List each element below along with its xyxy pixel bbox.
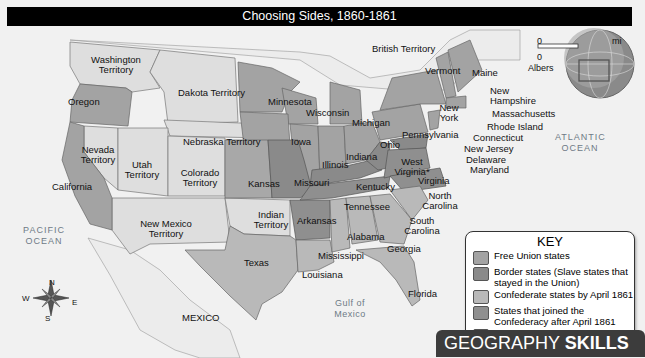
label-vermont: Vermont <box>425 66 460 76</box>
label-gulf-of-mexico: Gulf of Mexico <box>327 298 373 320</box>
label-west-virginia: West Virginia* <box>392 157 432 177</box>
swatch-joined-after <box>473 306 489 320</box>
label-louisiana: Louisiana <box>302 270 343 280</box>
label-kentucky: Kentucky <box>356 182 395 192</box>
map-key: KEY Free Union states Border states (Sla… <box>465 231 635 338</box>
scale-projection: Albers <box>528 63 554 73</box>
label-nevada-territory: Nevada Territory <box>78 145 118 165</box>
label-massachusetts: Massachusetts <box>492 109 555 119</box>
label-alabama: Alabama <box>347 232 385 242</box>
label-maine: Maine <box>472 68 498 78</box>
swatch-confederate <box>473 290 489 304</box>
label-mississippi: Mississippi <box>318 251 364 261</box>
label-dakota-territory: Dakota Territory <box>178 88 245 98</box>
label-tennessee: Tennessee <box>344 202 390 212</box>
scale-zero-bottom: 0 <box>537 52 542 62</box>
label-missouri: Missouri <box>294 178 329 188</box>
label-georgia: Georgia <box>387 244 421 254</box>
label-rhode-island: Rhode Island <box>487 122 543 132</box>
label-illinois: Illinois <box>322 160 348 170</box>
label-pacific-ocean: PACIFIC OCEAN <box>22 225 66 247</box>
key-title: KEY <box>466 235 634 249</box>
label-wisconsin: Wisconsin <box>306 108 349 118</box>
label-california: California <box>52 182 92 192</box>
key-label: Confederate states by April 1861 <box>494 290 633 301</box>
kansas <box>225 140 272 198</box>
key-item-free-union: Free Union states <box>473 251 634 265</box>
scale-zero-top: 0 <box>537 36 542 46</box>
key-item-confederate: Confederate states by April 1861 <box>473 290 634 304</box>
label-minnesota: Minnesota <box>268 97 312 107</box>
key-label: States that joined the Confederacy after… <box>494 306 634 327</box>
label-virginia: Virginia <box>418 176 450 186</box>
label-oregon: Oregon <box>68 97 100 107</box>
swatch-border <box>473 267 489 281</box>
swatch-free-union <box>473 251 489 265</box>
label-colorado-territory: Colorado Territory <box>178 168 222 188</box>
compass-e: E <box>72 298 77 308</box>
label-south-carolina: South Carolina <box>402 216 442 236</box>
label-nebraska-territory: Nebraska Territory <box>183 137 260 147</box>
key-item-border: Border states (Slave states that stayed … <box>473 267 634 288</box>
scale-bar <box>538 44 578 48</box>
key-item-joined-after: States that joined the Confederacy after… <box>473 306 634 327</box>
key-label: Border states (Slave states that stayed … <box>494 267 634 288</box>
map-title: Choosing Sides, 1860-1861 <box>7 7 632 26</box>
compass-s: S <box>45 314 50 324</box>
compass-n: N <box>49 278 55 288</box>
label-british-territory: British Territory <box>372 44 435 54</box>
label-new-hampshire: New Hampshire <box>490 86 540 106</box>
geography-skills-banner: GEOGRAPHY SKILLS <box>436 330 645 357</box>
label-utah-territory: Utah Territory <box>124 160 160 180</box>
label-iowa: Iowa <box>291 137 311 147</box>
label-texas: Texas <box>244 258 269 268</box>
label-new-mexico-territory: New Mexico Territory <box>135 219 197 239</box>
label-new-jersey: New Jersey <box>464 144 514 154</box>
label-north-carolina: North Carolina <box>420 191 460 211</box>
label-new-york: New York <box>434 103 464 123</box>
scale-unit-mi: mi <box>612 36 622 46</box>
label-connecticut: Connecticut <box>473 133 523 143</box>
compass-w: W <box>22 294 30 304</box>
label-kansas: Kansas <box>248 179 280 189</box>
banner-text: GEOGRAPHY <box>444 333 565 353</box>
label-pennsylvania: Pennsylvania <box>402 130 459 140</box>
label-maryland: Maryland <box>470 165 509 175</box>
label-atlantic-ocean: ATLANTIC OCEAN <box>555 132 605 154</box>
label-indiana: Indiana <box>346 152 377 162</box>
label-indian-territory: Indian Territory <box>250 210 292 230</box>
banner-bold-text: SKILLS <box>565 333 629 353</box>
label-ohio: Ohio <box>380 140 400 150</box>
label-washington-territory: Washington Territory <box>86 55 146 75</box>
label-mexico: MEXICO <box>182 313 219 323</box>
label-florida: Florida <box>408 289 437 299</box>
label-arkansas: Arkansas <box>297 216 337 226</box>
key-label: Free Union states <box>494 251 570 262</box>
label-michigan: Michigan <box>352 118 390 128</box>
